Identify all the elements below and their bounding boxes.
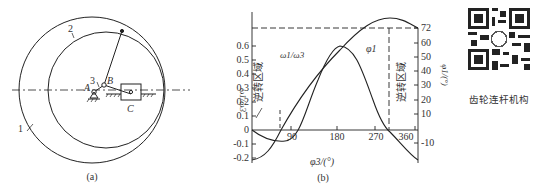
x-tick-label: 360 [399,131,414,142]
label-link3: 3 [90,75,95,86]
right-tick-label: 60 [421,37,431,48]
x-tick-label: 90 [287,131,297,142]
right-tick-label: 20 [421,94,431,105]
label-link2: 2 [68,23,73,34]
curve-omega-ratio [252,46,418,160]
left-tick-label: -0.2 [233,152,249,163]
mechanism-diagram [12,17,190,163]
left-tick-label: -0.1 [233,138,249,149]
reverse-zone-leader [256,108,262,118]
left-tick-label: 0.6 [237,40,250,51]
caption-b: (b) [317,172,329,184]
label-link1: 1 [18,123,23,134]
coupler-end-point [120,29,123,32]
label-slider-c: C [127,103,134,114]
joint-b [102,83,106,87]
right-tick-label: -10 [421,137,434,148]
x-tick-label: 180 [330,131,345,142]
qr-caption: 齿轮连杆机构 [456,92,542,106]
x-ticks [291,126,415,130]
left-tick-label: 0.5 [237,54,250,65]
right-tick-label: 40 [421,65,431,76]
right-y-axis-title: φ1/(°) [440,64,450,86]
curve-phi1-label: φ1 [366,43,377,54]
right-tick-label: 30 [421,79,431,90]
qr-code[interactable] [468,8,530,70]
connecting-rod [104,85,131,94]
reverse-zone-left-label: 逆转区域 [252,62,264,102]
left-tick-label: 0.4 [237,68,250,79]
label-pivot-a: A [83,82,91,93]
left-tick-label: 0 [244,124,249,135]
caption-a: (a) [86,171,97,183]
leader-3 [97,82,99,87]
reverse-zone-right-label: 逆转区域 [395,62,407,102]
right-ticks [414,28,418,143]
qr-logo-icon [491,31,506,46]
curve-omega-ratio-label: ω1/ω3 [280,50,305,60]
label-joint-b: B [107,75,113,86]
left-y-axis-title: ω1/ω3 [238,88,248,113]
right-tick-label: 10 [421,108,431,119]
ground-support [90,92,98,98]
x-tick-label: 270 [369,131,384,142]
right-tick-label: 50 [421,51,431,62]
slider-pin [129,90,132,93]
right-tick-label: 72 [421,22,431,33]
x-axis-title: φ3/(°) [310,156,335,168]
